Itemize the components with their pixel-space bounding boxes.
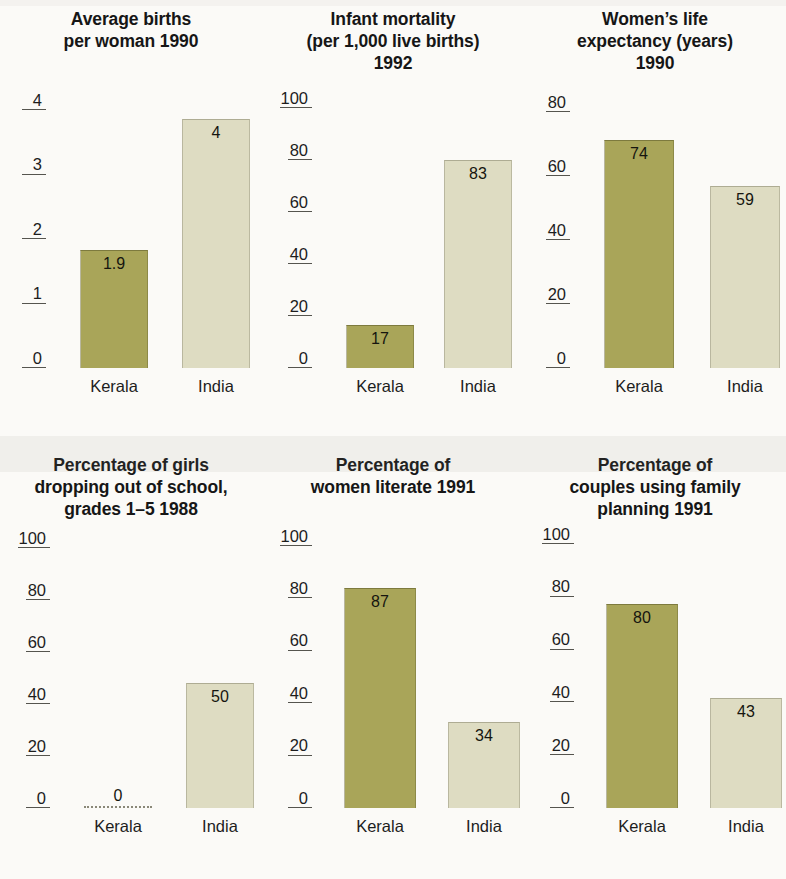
y-axis-tick-label: 40 [548, 222, 566, 239]
bar-kerala: 0 [84, 806, 152, 808]
y-axis-tick-label: 20 [290, 298, 308, 315]
y-axis-tick-mark [546, 111, 570, 112]
y-axis-tick-label: 60 [28, 634, 46, 651]
y-axis-tick-mark [550, 649, 574, 650]
y-axis-tick-label: 40 [28, 686, 46, 703]
y-axis-tick-mark [22, 109, 46, 110]
bar-value-label: 50 [187, 689, 253, 705]
y-axis-tick-mark [550, 596, 574, 597]
y-axis-tick-label: 40 [290, 685, 308, 702]
plot-area: 02040608074Kerala59India [524, 0, 786, 440]
y-axis-tick-mark [18, 547, 50, 548]
y-axis-tick-mark [542, 543, 574, 544]
y-axis-tick-mark [288, 755, 312, 756]
y-axis-tick-mark [288, 159, 312, 160]
y-axis-tick-mark [26, 599, 50, 600]
bar-kerala: 1.9 [80, 250, 148, 368]
plot-area: 02040608010080Kerala43India [524, 440, 786, 879]
chart-panel-3: Women’s lifeexpectancy (years)1990020406… [524, 0, 786, 440]
bar-kerala: 80 [606, 604, 678, 808]
y-axis-tick-label: 80 [290, 142, 308, 159]
bar-india: 59 [710, 186, 780, 368]
bar-kerala: 87 [344, 588, 416, 808]
plot-area: 012341.9Kerala4India [0, 0, 262, 440]
bar-kerala: 17 [346, 325, 414, 368]
plot-area: 02040608010087Kerala34India [262, 440, 524, 879]
y-axis-tick-label: 20 [548, 286, 566, 303]
y-axis: 020406080100 [0, 440, 262, 879]
y-axis-tick-label: 40 [552, 684, 570, 701]
plot-area: 0204060801000Kerala50India [0, 440, 262, 879]
x-axis-category-label: India [702, 818, 786, 835]
y-axis-tick-label: 20 [552, 737, 570, 754]
y-axis-tick-mark [22, 174, 46, 175]
y-axis-tick-mark [288, 367, 312, 368]
y-axis-tick-mark [288, 211, 312, 212]
bar-value-label: 87 [345, 594, 415, 610]
y-axis-tick-label: 100 [280, 90, 308, 107]
x-axis-category-label: India [440, 818, 528, 835]
y-axis-tick-label: 0 [299, 350, 308, 367]
y-axis-tick-label: 0 [561, 790, 570, 807]
x-axis-category-label: India [178, 818, 262, 835]
y-axis-tick-label: 0 [33, 350, 42, 367]
bar-india: 83 [444, 160, 512, 368]
y-axis-tick-mark [22, 367, 46, 368]
y-axis-tick-label: 60 [548, 158, 566, 175]
y-axis-tick-mark [546, 239, 570, 240]
x-axis-category-label: India [702, 378, 786, 395]
x-axis-category-label: Kerala [336, 818, 424, 835]
x-axis-category-label: Kerala [596, 378, 682, 395]
y-axis-tick-label: 3 [33, 156, 42, 173]
y-axis-tick-mark [550, 754, 574, 755]
y-axis-tick-label: 0 [37, 790, 46, 807]
bar-value-label: 59 [711, 192, 779, 208]
y-axis-tick-label: 0 [557, 350, 566, 367]
bar-india: 4 [182, 119, 250, 368]
y-axis-tick-mark [288, 807, 312, 808]
y-axis-tick-label: 20 [28, 738, 46, 755]
y-axis-tick-mark [550, 807, 574, 808]
chart-panel-4: Percentage of girlsdropping out of schoo… [0, 440, 262, 879]
x-axis-category-label: Kerala [598, 818, 686, 835]
y-axis-tick-label: 100 [280, 528, 308, 545]
y-axis-tick-mark [546, 175, 570, 176]
bar-value-label: 4 [183, 125, 249, 141]
y-axis-tick-mark [288, 597, 312, 598]
bar-value-label: 43 [711, 704, 781, 720]
y-axis-tick-mark [288, 650, 312, 651]
x-axis-category-label: Kerala [338, 378, 422, 395]
y-axis-tick-label: 60 [290, 632, 308, 649]
plot-area: 02040608010017Kerala83India [262, 0, 524, 440]
y-axis-tick-label: 80 [290, 580, 308, 597]
y-axis-tick-label: 100 [18, 530, 46, 547]
y-axis-tick-label: 4 [33, 92, 42, 109]
chart-panel-2: Infant mortality(per 1,000 live births)1… [262, 0, 524, 440]
chart-panel-6: Percentage ofcouples using familyplannin… [524, 440, 786, 879]
y-axis-tick-mark [546, 367, 570, 368]
bar-kerala: 74 [604, 140, 674, 369]
y-axis-tick-label: 60 [552, 631, 570, 648]
bar-value-label: 83 [445, 166, 511, 182]
x-axis-category-label: India [174, 378, 258, 395]
y-axis-tick-label: 20 [290, 737, 308, 754]
y-axis-tick-mark [22, 303, 46, 304]
x-axis-category-label: India [436, 378, 520, 395]
x-axis-category-label: Kerala [72, 378, 156, 395]
y-axis-tick-label: 80 [28, 582, 46, 599]
bar-value-label: 74 [605, 146, 673, 162]
y-axis-tick-mark [22, 238, 46, 239]
y-axis-tick-mark [288, 263, 312, 264]
y-axis-tick-label: 80 [548, 94, 566, 111]
y-axis-tick-label: 2 [33, 221, 42, 238]
y-axis-tick-label: 60 [290, 194, 308, 211]
y-axis-tick-mark [280, 107, 312, 108]
bar-value-label: 34 [449, 728, 519, 744]
x-axis-category-label: Kerala [76, 818, 160, 835]
chart-panel-1: Average birthsper woman 1990012341.9Kera… [0, 0, 262, 440]
y-axis-tick-mark [288, 315, 312, 316]
bar-value-label: 0 [84, 788, 152, 804]
bar-india: 43 [710, 698, 782, 808]
y-axis-tick-mark [26, 651, 50, 652]
y-axis-tick-mark [26, 755, 50, 756]
